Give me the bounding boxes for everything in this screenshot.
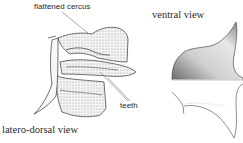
label-flattened-cercus: flattened cercus	[34, 3, 90, 11]
leader-line-teeth-2	[108, 78, 130, 101]
leader-line-cercus	[62, 12, 88, 33]
ventral-lower-drawing	[172, 84, 243, 138]
illustration-drawings	[0, 0, 243, 143]
ventral-upper-drawing	[172, 22, 243, 80]
label-ventral-view: ventral view	[152, 10, 204, 21]
label-teeth: teeth	[120, 102, 138, 110]
morphology-figure: flattened cercus teeth latero-dorsal vie…	[0, 0, 243, 143]
label-latero-dorsal-view: latero-dorsal view	[2, 125, 78, 136]
